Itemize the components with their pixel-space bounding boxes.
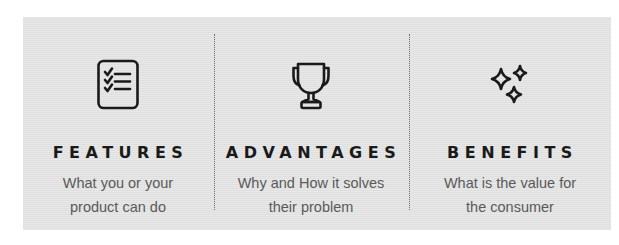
sparkles-icon	[482, 57, 538, 113]
features-description: What you or your product can do	[23, 171, 213, 219]
advantages-column: ADVANTAGES Why and How it solves their p…	[213, 17, 409, 230]
benefits-description: What is the value for the consumer	[409, 171, 611, 219]
advantages-description-line1: Why and How it solves	[213, 171, 409, 195]
advantages-description-line2: their problem	[213, 195, 409, 219]
features-description-line2: product can do	[23, 195, 213, 219]
trophy-icon	[283, 57, 339, 113]
features-description-line1: What you or your	[23, 171, 213, 195]
advantages-description: Why and How it solves their problem	[213, 171, 409, 219]
checklist-icon	[90, 57, 146, 113]
features-column: FEATURES What you or your product can do	[23, 17, 213, 230]
fab-panel: FEATURES What you or your product can do…	[23, 17, 611, 230]
benefits-column: BENEFITS What is the value for the consu…	[409, 17, 611, 230]
benefits-description-line2: the consumer	[409, 195, 611, 219]
benefits-description-line1: What is the value for	[409, 171, 611, 195]
advantages-heading: ADVANTAGES	[213, 143, 409, 162]
benefits-heading: BENEFITS	[409, 143, 611, 162]
features-heading: FEATURES	[23, 143, 213, 162]
